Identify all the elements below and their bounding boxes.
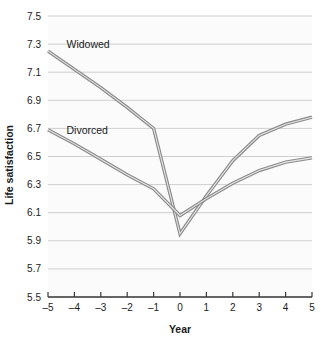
- x-tick-label: –3: [95, 302, 107, 313]
- y-tick-label: 7.3: [27, 39, 41, 50]
- y-axis-tick-labels: 5.55.75.96.16.36.56.76.97.17.37.5: [27, 11, 41, 303]
- chart-container: 5.55.75.96.16.36.56.76.97.17.37.5 –5–4–3…: [0, 0, 326, 348]
- y-tick-label: 7.1: [27, 67, 41, 78]
- x-tick-label: –5: [42, 302, 54, 313]
- y-tick-label: 5.7: [27, 263, 41, 274]
- x-tick-label: –1: [148, 302, 160, 313]
- x-tick-label: 4: [283, 302, 289, 313]
- x-axis-tick-labels: –5–4–3–2–1012345: [42, 302, 315, 313]
- y-tick-label: 5.5: [27, 292, 41, 303]
- y-tick-label: 6.5: [27, 151, 41, 162]
- y-tick-label: 6.1: [27, 207, 41, 218]
- x-tick-label: 2: [230, 302, 236, 313]
- y-tick-label: 7.5: [27, 11, 41, 22]
- x-tick-label: 1: [204, 302, 210, 313]
- x-tick-label: –2: [122, 302, 134, 313]
- x-tick-label: 0: [177, 302, 183, 313]
- y-tick-label: 5.9: [27, 235, 41, 246]
- x-tick-label: 3: [256, 302, 262, 313]
- y-tick-label: 6.7: [27, 123, 41, 134]
- x-axis-title: Year: [169, 323, 191, 335]
- series-label-divorced: Divorced: [66, 124, 108, 136]
- series-label-widowed: Widowed: [66, 38, 109, 50]
- x-tick-label: –4: [69, 302, 81, 313]
- line-chart: 5.55.75.96.16.36.56.76.97.17.37.5 –5–4–3…: [0, 0, 326, 348]
- y-tick-label: 6.9: [27, 95, 41, 106]
- x-tick-label: 5: [309, 302, 315, 313]
- y-axis-title: Life satisfaction: [3, 125, 15, 205]
- y-tick-label: 6.3: [27, 179, 41, 190]
